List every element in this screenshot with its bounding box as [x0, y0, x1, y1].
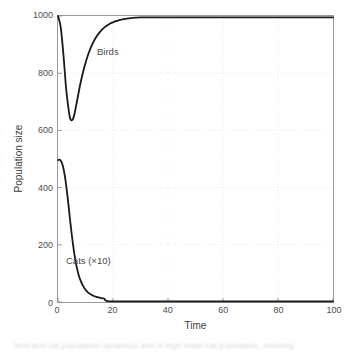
series-label-cats: Cats (×10)	[66, 255, 111, 266]
y-tick-label-0: 0	[48, 298, 53, 308]
x-tick-label-2: 40	[163, 305, 173, 315]
x-tick-label-4: 80	[274, 305, 284, 315]
x-tick-label-0: 0	[54, 305, 59, 315]
x-tick-label-3: 60	[218, 305, 228, 315]
x-tick-label-1: 20	[107, 305, 117, 315]
y-tick-label-3: 600	[38, 125, 53, 135]
x-axis-label: Time	[57, 320, 334, 331]
y-tick-label-1: 200	[38, 240, 53, 250]
y-tick-label-4: 800	[38, 68, 53, 78]
x-tick-label-5: 100	[326, 305, 341, 315]
series-label-birds: Birds	[97, 46, 119, 57]
caption-fragment: Bird and cat population dynamics with a …	[14, 341, 354, 350]
y-axis-label: Population size	[13, 99, 24, 219]
series-line-cats-10	[58, 160, 333, 302]
y-tick-label-5: 1000	[33, 10, 53, 20]
figure-container: 02004006008001000 020406080100 Time Popu…	[0, 0, 358, 355]
y-axis-tick-labels: 02004006008001000	[0, 15, 53, 303]
series-line-birds	[58, 16, 333, 120]
x-axis-tick-labels: 020406080100	[57, 305, 334, 321]
y-tick-label-2: 400	[38, 183, 53, 193]
